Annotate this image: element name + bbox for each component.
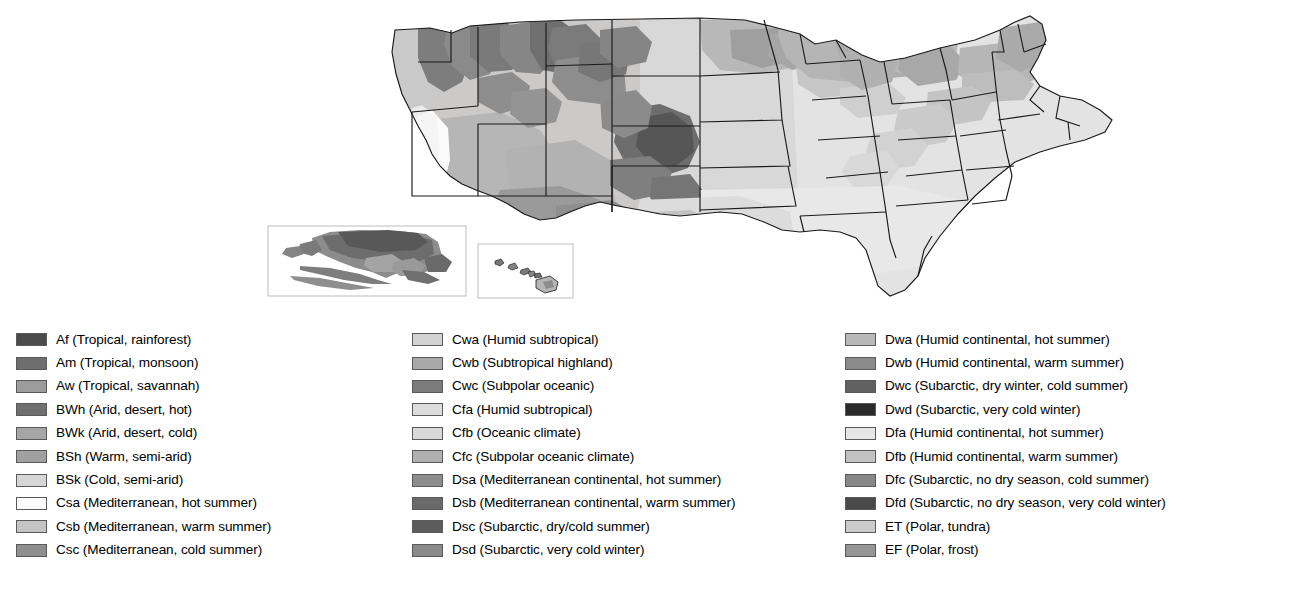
legend-label-dfc: Dfc (Subarctic, no dry season, cold summ…	[885, 473, 1149, 487]
legend-swatch-dsb	[412, 497, 443, 510]
legend-item-csb: Csb (Mediterranean, warm summer)	[16, 515, 271, 538]
legend-label-bsk: BSk (Cold, semi-arid)	[56, 473, 183, 487]
legend-swatch-bsh	[16, 450, 47, 463]
legend-item-dwa: Dwa (Humid continental, hot summer)	[845, 328, 1166, 351]
legend-swatch-dsc	[412, 520, 443, 533]
legend-swatch-aw	[16, 380, 47, 393]
legend-label-dsc: Dsc (Subarctic, dry/cold summer)	[452, 520, 650, 534]
legend-swatch-csc	[16, 544, 47, 557]
legend-swatch-af	[16, 333, 47, 346]
legend-swatch-dfa	[845, 427, 876, 440]
legend-label-af: Af (Tropical, rainforest)	[56, 333, 191, 347]
legend-column-d-e: Dwa (Humid continental, hot summer)Dwb (…	[845, 328, 1166, 562]
legend-swatch-dsa	[412, 474, 443, 487]
legend-item-dwb: Dwb (Humid continental, warm summer)	[845, 351, 1166, 374]
legend-swatch-bsk	[16, 474, 47, 487]
legend-label-dwd: Dwd (Subarctic, very cold winter)	[885, 403, 1080, 417]
legend-label-dsd: Dsd (Subarctic, very cold winter)	[452, 543, 644, 557]
legend-item-ef: EF (Polar, frost)	[845, 539, 1166, 562]
legend-item-et: ET (Polar, tundra)	[845, 515, 1166, 538]
legend-label-dfd: Dfd (Subarctic, no dry season, very cold…	[885, 496, 1166, 510]
legend-swatch-bwk	[16, 427, 47, 440]
legend-label-cfc: Cfc (Subpolar oceanic climate)	[452, 450, 634, 464]
legend-item-am: Am (Tropical, monsoon)	[16, 351, 271, 374]
legend-column-c-d: Cwa (Humid subtropical)Cwb (Subtropical …	[412, 328, 735, 562]
legend-item-cwc: Cwc (Subpolar oceanic)	[412, 375, 735, 398]
legend-item-dwc: Dwc (Subarctic, dry winter, cold summer)	[845, 375, 1166, 398]
climate-map	[0, 0, 1295, 318]
legend-swatch-dfc	[845, 474, 876, 487]
legend-item-bsh: BSh (Warm, semi-arid)	[16, 445, 271, 468]
legend-swatch-dfb	[845, 450, 876, 463]
legend-swatch-csb	[16, 520, 47, 533]
legend-label-csa: Csa (Mediterranean, hot summer)	[56, 496, 257, 510]
climate-map-svg	[0, 0, 1295, 318]
legend-swatch-dsd	[412, 544, 443, 557]
legend-label-csc: Csc (Mediterranean, cold summer)	[56, 543, 262, 557]
legend-label-cwb: Cwb (Subtropical highland)	[452, 356, 613, 370]
legend-label-dfa: Dfa (Humid continental, hot summer)	[885, 426, 1104, 440]
legend-label-aw: Aw (Tropical, savannah)	[56, 379, 200, 393]
legend-label-dsb: Dsb (Mediterranean continental, warm sum…	[452, 496, 735, 510]
climate-legend: Af (Tropical, rainforest)Am (Tropical, m…	[0, 328, 1295, 586]
legend-item-dwd: Dwd (Subarctic, very cold winter)	[845, 398, 1166, 421]
legend-label-bwh: BWh (Arid, desert, hot)	[56, 403, 192, 417]
legend-label-cfb: Cfb (Oceanic climate)	[452, 426, 581, 440]
legend-swatch-ef	[845, 544, 876, 557]
legend-swatch-csa	[16, 497, 47, 510]
legend-item-dfc: Dfc (Subarctic, no dry season, cold summ…	[845, 468, 1166, 491]
legend-label-dwa: Dwa (Humid continental, hot summer)	[885, 333, 1110, 347]
legend-item-cfa: Cfa (Humid subtropical)	[412, 398, 735, 421]
legend-item-aw: Aw (Tropical, savannah)	[16, 375, 271, 398]
legend-item-csc: Csc (Mediterranean, cold summer)	[16, 539, 271, 562]
legend-item-dfd: Dfd (Subarctic, no dry season, very cold…	[845, 492, 1166, 515]
legend-label-bsh: BSh (Warm, semi-arid)	[56, 450, 192, 464]
legend-label-ef: EF (Polar, frost)	[885, 543, 978, 557]
legend-swatch-et	[845, 520, 876, 533]
legend-label-bwk: BWk (Arid, desert, cold)	[56, 426, 197, 440]
legend-swatch-cfc	[412, 450, 443, 463]
legend-item-dfb: Dfb (Humid continental, warm summer)	[845, 445, 1166, 468]
legend-label-am: Am (Tropical, monsoon)	[56, 356, 198, 370]
legend-item-cwb: Cwb (Subtropical highland)	[412, 351, 735, 374]
legend-swatch-cfb	[412, 427, 443, 440]
legend-item-bsk: BSk (Cold, semi-arid)	[16, 468, 271, 491]
legend-label-cwa: Cwa (Humid subtropical)	[452, 333, 599, 347]
legend-column-a-b-c: Af (Tropical, rainforest)Am (Tropical, m…	[16, 328, 271, 562]
legend-label-csb: Csb (Mediterranean, warm summer)	[56, 520, 271, 534]
legend-swatch-dwc	[845, 380, 876, 393]
legend-item-dfa: Dfa (Humid continental, hot summer)	[845, 422, 1166, 445]
legend-swatch-dwb	[845, 357, 876, 370]
legend-label-dwb: Dwb (Humid continental, warm summer)	[885, 356, 1124, 370]
legend-swatch-cwa	[412, 333, 443, 346]
legend-swatch-cwb	[412, 357, 443, 370]
legend-label-dsa: Dsa (Mediterranean continental, hot summ…	[452, 473, 721, 487]
legend-label-cfa: Cfa (Humid subtropical)	[452, 403, 592, 417]
legend-label-dfb: Dfb (Humid continental, warm summer)	[885, 450, 1118, 464]
legend-label-dwc: Dwc (Subarctic, dry winter, cold summer)	[885, 379, 1128, 393]
legend-swatch-dfd	[845, 497, 876, 510]
legend-item-bwk: BWk (Arid, desert, cold)	[16, 422, 271, 445]
legend-swatch-bwh	[16, 403, 47, 416]
legend-swatch-cfa	[412, 403, 443, 416]
legend-item-bwh: BWh (Arid, desert, hot)	[16, 398, 271, 421]
legend-swatch-dwd	[845, 403, 876, 416]
legend-label-et: ET (Polar, tundra)	[885, 520, 990, 534]
legend-item-cfb: Cfb (Oceanic climate)	[412, 422, 735, 445]
legend-label-cwc: Cwc (Subpolar oceanic)	[452, 379, 594, 393]
legend-item-cfc: Cfc (Subpolar oceanic climate)	[412, 445, 735, 468]
legend-item-dsa: Dsa (Mediterranean continental, hot summ…	[412, 468, 735, 491]
legend-item-cwa: Cwa (Humid subtropical)	[412, 328, 735, 351]
legend-swatch-am	[16, 357, 47, 370]
legend-swatch-dwa	[845, 333, 876, 346]
legend-item-af: Af (Tropical, rainforest)	[16, 328, 271, 351]
legend-item-csa: Csa (Mediterranean, hot summer)	[16, 492, 271, 515]
legend-item-dsb: Dsb (Mediterranean continental, warm sum…	[412, 492, 735, 515]
legend-item-dsc: Dsc (Subarctic, dry/cold summer)	[412, 515, 735, 538]
legend-item-dsd: Dsd (Subarctic, very cold winter)	[412, 539, 735, 562]
legend-swatch-cwc	[412, 380, 443, 393]
